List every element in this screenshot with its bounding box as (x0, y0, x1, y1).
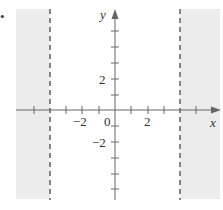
shaded-region-left (16, 9, 50, 199)
x-tick-label-2: 2 (144, 114, 151, 129)
x-tick-label-neg2: −2 (73, 114, 87, 129)
y-tick-label-neg2: −2 (92, 135, 106, 150)
bullet-marker: • (0, 9, 5, 24)
y-tick-label-2: 2 (99, 72, 106, 87)
origin-label: 0 (104, 114, 111, 129)
shaded-region-right (180, 9, 220, 199)
y-axis-arrow-icon (112, 9, 119, 19)
graph-figure: • y x 2 −2 −2 2 0 (0, 0, 223, 210)
y-axis-label: y (98, 7, 106, 22)
x-axis-label: x (209, 115, 216, 130)
